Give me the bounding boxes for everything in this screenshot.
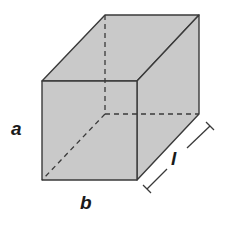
label-width-b: b <box>80 193 92 212</box>
label-height-a: a <box>11 119 22 138</box>
prism-diagram <box>0 0 230 227</box>
label-length-l: l <box>171 149 176 168</box>
